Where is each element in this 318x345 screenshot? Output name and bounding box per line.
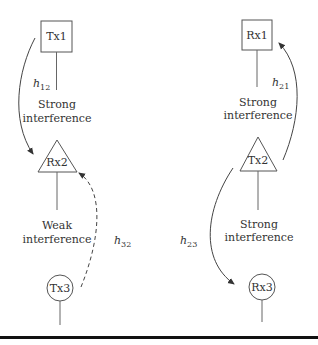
arrow-h12 [19, 38, 35, 154]
link-2-1-desc-line2: interference [224, 109, 293, 122]
rx1-label: Rx1 [246, 29, 267, 42]
h32-label: h32 [114, 234, 131, 249]
arrow-h32 [79, 173, 97, 287]
rx3-node: Rx3 [249, 274, 275, 300]
interference-diagram: Tx1 h12 Strong interference Rx2 Weak int… [0, 0, 318, 345]
tx2-label: Tx2 [248, 154, 269, 167]
tx2-node: Tx2 [240, 137, 277, 171]
link-2-3-desc-line1: Strong [240, 218, 278, 231]
rx2-node: Rx2 [38, 140, 77, 172]
tx1-node: Tx1 [41, 21, 72, 52]
h23-label: h23 [180, 234, 197, 249]
arrow-h23 [210, 168, 234, 284]
bottom-rule [0, 336, 318, 339]
arrow-h21 [279, 43, 297, 160]
rx1-node: Rx1 [242, 20, 272, 50]
h21-label: h21 [272, 76, 289, 91]
link-1-2-desc-line2: interference [23, 112, 92, 125]
h12-label: h12 [33, 77, 50, 92]
link-2-1-desc-line1: Strong [239, 96, 277, 109]
tx3-node: Tx3 [47, 275, 73, 301]
tx3-label: Tx3 [50, 282, 71, 295]
link-3-2-desc-line1: Weak [42, 219, 72, 232]
link-2-3-desc-line2: interference [225, 231, 294, 244]
rx3-label: Rx3 [251, 281, 272, 294]
tx1-label: Tx1 [46, 30, 67, 43]
link-3-2-desc-line2: interference [23, 233, 92, 246]
link-1-2-desc-line1: Strong [38, 98, 76, 111]
rx2-label: Rx2 [46, 156, 67, 169]
